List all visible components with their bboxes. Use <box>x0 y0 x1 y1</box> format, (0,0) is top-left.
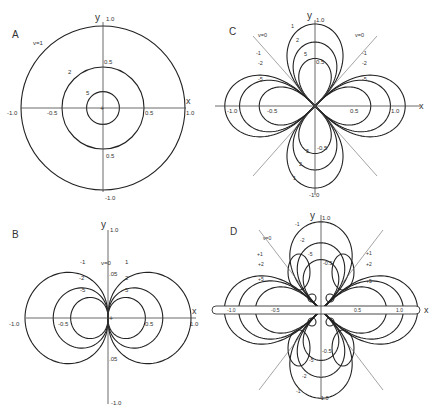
panel-c-tick-x-05: 0.5 <box>350 108 359 114</box>
panel-c-tick-y-05: 0.5 <box>316 59 325 65</box>
panel-d-curve-label-pos2: +2 <box>258 261 264 267</box>
panel-b-tick-x-neg1: -1.0 <box>9 321 20 327</box>
panel-c-tick-x-neg1: -1.0 <box>227 108 238 114</box>
panel-c-tick-x-1: 1.0 <box>391 108 400 114</box>
panel-a-tick-y-neg1: -1.0 <box>105 195 116 201</box>
panel-a-tick-x-05: 0.5 <box>145 110 154 116</box>
panel-d: D y 1.0 x -1.0 -0.5 0.5 1.0 -0.5 -0.5 -1… <box>212 210 429 401</box>
panel-c-tick-y-neg05: -0.5 <box>317 145 328 151</box>
panel-b-zero-label: v=0 <box>101 260 112 266</box>
panel-a-origin-marker: + <box>100 105 104 112</box>
panel-a-curve-label-2: 2 <box>68 69 72 75</box>
panel-c-curve-label-neg1: -1 <box>256 50 261 56</box>
panel-d-curve-label-neg5: -5 <box>308 251 313 257</box>
panel-d-tick-x-05: 0.5 <box>354 307 361 313</box>
panel-d-tick-x-neg05: -0.5 <box>271 307 280 313</box>
panel-c-label: C <box>229 26 236 37</box>
panel-d-conducting-tube <box>212 306 420 314</box>
panel-c-curve-label-1: 1 <box>291 23 294 29</box>
panel-c-x-axis-label: x <box>419 101 424 111</box>
panel-b: B y 1.0 x 1.0 -1.0 -0.5 0.5 .05 .05 -1.0… <box>9 219 199 406</box>
panel-b-tick-x-1: 1.0 <box>190 321 199 327</box>
panel-d-tick-y-neg1: -1.0 <box>319 395 328 401</box>
panel-a-tick-x-neg05: -0.5 <box>47 110 58 116</box>
panel-c-curve-label-1-bottom: 1 <box>293 175 296 181</box>
panel-b-curve-label-1: 1 <box>125 259 129 265</box>
panel-b-tick-y-neg05: .05 <box>109 356 118 362</box>
panel-a-tick-y-neg05: 0.5 <box>106 153 115 159</box>
panel-a-x-axis-label: x <box>186 96 191 106</box>
panel-c-tick-x-neg05: -0.5 <box>267 108 278 114</box>
panel-d-x-axis-label: x <box>424 305 429 315</box>
panel-d-curve-label-neg2-bottom: -2 <box>302 373 307 379</box>
panel-d-tick-x-1: 1.0 <box>396 307 403 313</box>
panel-c: C y 1.0 x -1.0 -0.5 0.5 1.0 0.5 -0.5 -1.… <box>215 10 424 198</box>
panel-b-tick-x-05: 0.5 <box>145 321 154 327</box>
panel-c-curve-label-neg5: -5 <box>258 76 263 82</box>
panel-d-curve-label-pos1-right: +1 <box>366 250 372 256</box>
panel-b-curve-label-neg1: -1 <box>80 259 86 265</box>
panel-a-label: A <box>12 29 19 40</box>
panel-b-x-axis-label: x <box>192 306 197 316</box>
panel-c-curve-label-5: 5 <box>304 51 307 57</box>
panel-a-tick-x-1: 1.0 <box>186 110 195 116</box>
panel-c-y-axis-label: y <box>307 10 312 21</box>
panel-b-label: B <box>12 229 19 240</box>
panel-d-curve-label-pos5: +5 <box>258 276 264 282</box>
panel-d-curve-label-neg5-bottom: -5 <box>309 357 314 363</box>
panel-d-tick-y-05: -0.5 <box>323 260 332 266</box>
panel-d-tick-x-neg1: -1.0 <box>227 307 236 313</box>
panel-c-curve-label-5-bottom: 5 <box>306 148 309 154</box>
panel-c-curve-label-neg1-right: -1 <box>362 50 367 56</box>
panel-b-tick-y-05: .05 <box>109 271 118 277</box>
panel-d-zero-label: v=0 <box>263 235 271 241</box>
panel-c-curve-label-neg5-right: -5 <box>362 76 367 82</box>
panel-c-tick-y-1: 1.0 <box>316 17 325 23</box>
panel-a-curve-label-5: 5 <box>86 90 90 96</box>
panel-b-origin-marker: + <box>109 315 113 322</box>
panel-b-curve-label-neg5: -5 <box>80 287 86 293</box>
panel-d-curve-label-pos2-right: +2 <box>366 261 372 267</box>
panel-a-tick-y-1: 1.0 <box>106 16 115 22</box>
panel-d-curve-label-pos1: +1 <box>257 251 263 257</box>
panel-a-tick-x-neg1: -1.0 <box>7 110 18 116</box>
panel-d-tick-y-1: 1.0 <box>322 215 331 221</box>
panel-a: A y 1.0 x 1.0 -1.0 -0.5 0.5 0.5 0.5 -1.0… <box>7 12 195 201</box>
panel-d-curve-label-neg1-bottom: -1 <box>296 388 301 394</box>
panel-c-curve-label-neg2: -2 <box>258 60 263 66</box>
panel-b-tick-x-neg05: -0.5 <box>58 321 69 327</box>
panel-d-curve-label-pos5-right: +5 <box>366 278 372 284</box>
panel-a-curve-label-1: v=1 <box>33 40 44 46</box>
panel-a-y-axis-label: y <box>95 12 100 23</box>
panel-c-tick-y-neg1: -1.0 <box>309 192 320 198</box>
panel-d-label: D <box>230 226 237 237</box>
field-lines-figure: A y 1.0 x 1.0 -1.0 -0.5 0.5 0.5 0.5 -1.0… <box>0 0 438 413</box>
panel-c-zero-label-right: v=0 <box>355 32 364 38</box>
panel-c-curve-label-2-bottom: 2 <box>299 161 302 167</box>
panel-b-tick-y-1: 1.0 <box>110 227 119 233</box>
panel-c-zero-label-left: v=0 <box>258 32 267 38</box>
panel-c-curve-label-2: 2 <box>296 37 299 43</box>
panel-b-tick-y-neg1: -1.0 <box>111 400 122 406</box>
panel-b-curve-label-5: 5 <box>125 287 129 293</box>
panel-d-tick-y-neg05: -0.5 <box>322 348 331 354</box>
panel-d-curve-label-neg2: -2 <box>300 237 305 243</box>
panel-a-tick-y-05: 0.5 <box>104 59 113 65</box>
panel-d-curve-label-neg1: -1 <box>295 221 300 227</box>
panel-d-y-axis-label: y <box>310 210 315 221</box>
panel-c-curve-label-neg2-right: -2 <box>362 60 367 66</box>
panel-b-y-axis-label: y <box>101 219 106 230</box>
panel-b-curve-label-neg2: -2 <box>79 275 85 281</box>
